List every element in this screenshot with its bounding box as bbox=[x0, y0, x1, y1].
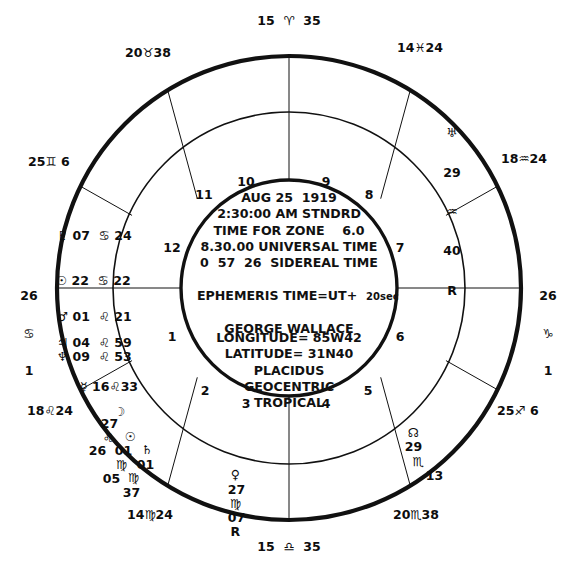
planet-sun: ☉ 22 ♋ 22 bbox=[56, 274, 131, 287]
lower-venus-retrograde-wrap: R bbox=[219, 512, 243, 538]
info-longitude: LONGITUDE= 85W42 bbox=[128, 330, 450, 346]
cusp-label-7: 26 ♑ 1 bbox=[533, 265, 563, 390]
cusp-label-11: 20♉38 bbox=[125, 46, 171, 59]
saturn-minute: 37 bbox=[123, 485, 140, 500]
house-number-10: 10 bbox=[234, 175, 258, 188]
cusp-label-2: 18♌24 bbox=[27, 404, 73, 417]
cusp-1-minute: 1 bbox=[14, 365, 44, 378]
info-sidereal-time: 0 57 26 SIDEREAL TIME bbox=[128, 255, 450, 271]
chart-location-block: LONGITUDE= 85W42 LATITUDE= 31N40 PLACIDU… bbox=[128, 330, 450, 412]
cusp-label-12: 25♊ 6 bbox=[28, 155, 70, 168]
moon-minute-wrap: 26 bbox=[80, 431, 104, 457]
north-node-minute: 13 bbox=[426, 468, 443, 483]
house-number-9: 9 bbox=[314, 175, 338, 188]
cusp-7-degree: 26 bbox=[533, 290, 563, 303]
planet-neptune: ♆ 09 ♌ 53 bbox=[57, 350, 132, 363]
cusp-label-6: 25♐ 6 bbox=[497, 404, 539, 417]
info-house-system: PLACIDUS bbox=[128, 363, 450, 379]
info-local-time: 2:30:00 AM STNDRD bbox=[128, 206, 450, 222]
cusp-label-10: 15 ♈ 35 bbox=[239, 14, 339, 27]
planet-mars: ♂ 01 ♌ 21 bbox=[57, 310, 132, 323]
info-perspective: GEOCENTRIC bbox=[128, 379, 450, 395]
cusp-label-4: 15 ♎ 35 bbox=[239, 540, 339, 553]
planet-pluto: ♇ 07 ♋ 24 bbox=[57, 229, 132, 242]
cusp-1-sign-cancer: ♋ bbox=[14, 328, 44, 341]
spoke-cusp-9 bbox=[381, 90, 411, 198]
spoke-cusp-11 bbox=[168, 90, 198, 198]
info-time-zone: TIME FOR ZONE 6.0 bbox=[128, 223, 450, 239]
planet-jupiter: ♃ 04 ♌ 59 bbox=[57, 336, 132, 349]
chart-info-block: AUG 25 1919 2:30:00 AM STNDRD TIME FOR Z… bbox=[128, 190, 450, 337]
lower-venus-retrograde: R bbox=[231, 524, 241, 539]
cusp-7-minute: 1 bbox=[533, 365, 563, 378]
spoke-cusp-6 bbox=[446, 361, 498, 390]
info-date: AUG 25 1919 bbox=[128, 190, 450, 206]
cusp-label-1: 26 ♋ 1 bbox=[14, 265, 44, 390]
info-zodiac: TROPICAL bbox=[128, 395, 450, 411]
uranus-glyph: ♅ bbox=[432, 126, 472, 139]
info-universal-time: 8.30.00 UNIVERSAL TIME bbox=[128, 239, 450, 255]
info-ephemeris-time-label: EPHEMERIS TIME=UT+ bbox=[197, 288, 357, 303]
cusp-label-9: 14♓24 bbox=[397, 41, 443, 54]
uranus-degree: 29 bbox=[432, 166, 472, 179]
spoke-cusp-12 bbox=[80, 186, 132, 215]
info-ephemeris-time-seconds: 20sec bbox=[366, 291, 399, 302]
saturn-degree: 01 bbox=[137, 457, 154, 472]
cusp-label-3: 14♍24 bbox=[127, 508, 173, 521]
info-latitude: LATITUDE= 31N40 bbox=[128, 346, 450, 362]
saturn-minute-wrap: 37 bbox=[114, 473, 138, 499]
cusp-label-8: 18♒24 bbox=[501, 152, 547, 165]
info-ephemeris-time: EPHEMERIS TIME=UT+ 20sec bbox=[128, 272, 450, 321]
cusp-7-sign-capricorn: ♑ bbox=[533, 328, 563, 341]
cusp-label-5: 20♏38 bbox=[393, 508, 439, 521]
node-minute-wrap: 13 bbox=[417, 456, 443, 482]
cusp-1-degree: 26 bbox=[14, 290, 44, 303]
moon-minute: 26 bbox=[89, 443, 106, 458]
